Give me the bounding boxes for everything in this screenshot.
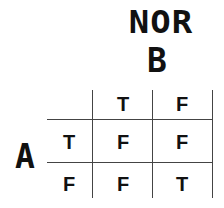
grid-line <box>47 119 213 120</box>
grid-line <box>47 162 213 163</box>
row-header-cell: T <box>44 130 94 154</box>
grid-line <box>152 90 153 198</box>
truth-value-cell: F <box>98 130 148 154</box>
truth-value-cell: T <box>157 172 207 196</box>
column-header-cell: T <box>98 92 148 116</box>
column-header-cell: F <box>157 92 207 116</box>
diagram-title: NOR <box>111 5 211 38</box>
truth-value-cell: F <box>98 172 148 196</box>
row-variable-label: A <box>10 139 40 175</box>
row-header-cell: F <box>44 172 94 196</box>
truth-value-cell: F <box>157 130 207 154</box>
grid-line <box>212 90 213 198</box>
column-variable-label: B <box>140 44 174 78</box>
